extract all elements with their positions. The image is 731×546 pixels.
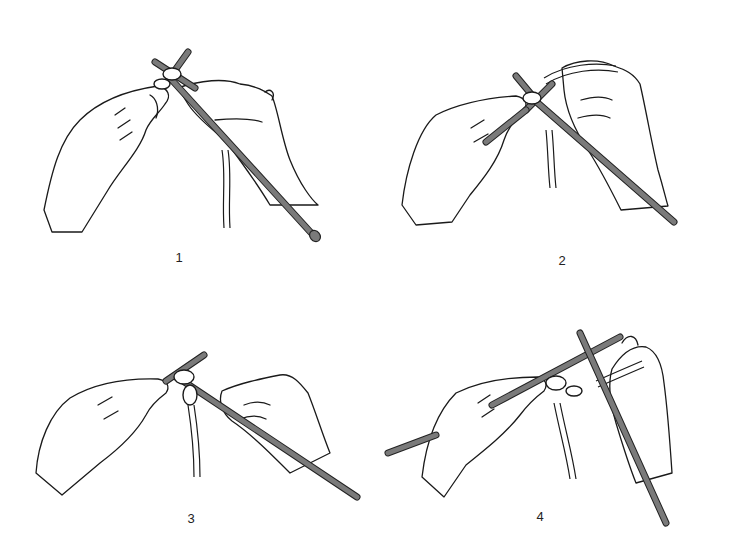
knitting-hands-step-2-illustration [366, 0, 731, 273]
knitting-hands-step-4-illustration [366, 273, 731, 546]
step-label-2: 2 [552, 253, 572, 268]
step-label-4: 4 [530, 509, 550, 524]
panel-step-4: 4 [366, 273, 731, 546]
step-label-3: 3 [181, 511, 201, 526]
panel-step-2: 2 [366, 0, 731, 273]
step-label-1: 1 [169, 250, 189, 265]
knitting-hands-step-1-illustration [0, 0, 365, 273]
panel-step-3: 3 [0, 273, 365, 546]
knitting-hands-step-3-illustration [0, 273, 365, 546]
panel-step-1: 1 [0, 0, 365, 273]
